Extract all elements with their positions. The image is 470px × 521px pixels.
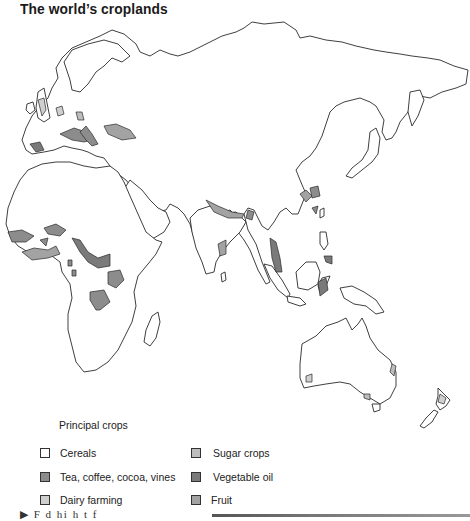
legend-item-sugar: Sugar crops <box>191 447 270 459</box>
legend-heading: Principal crops <box>59 419 128 431</box>
legend-item-dairy: Dairy farming <box>40 494 122 506</box>
legend-swatch-dairy <box>40 495 50 505</box>
kamchatka <box>408 90 424 126</box>
crop-region-china <box>310 186 320 198</box>
legend-item-cereals: Cereals <box>40 447 96 459</box>
crop-region-philippines <box>324 256 332 264</box>
crop-region-china <box>312 206 318 214</box>
crop-region-tea <box>246 210 254 220</box>
legend-item-vegoil: Vegetable oil <box>191 471 273 483</box>
philippines <box>320 232 328 250</box>
japan <box>346 128 380 178</box>
legend-label: Tea, coffee, cocoa, vines <box>60 471 175 483</box>
legend-label: Fruit <box>211 494 232 506</box>
legend-label: Cereals <box>60 447 96 459</box>
legend-swatch-cereals <box>40 448 50 458</box>
ireland <box>26 102 35 114</box>
cropped-footer-text: ▶ F d hi h t f <box>20 508 98 521</box>
new-guinea <box>340 286 384 314</box>
legend-label: Vegetable oil <box>213 471 273 483</box>
crop-region-small <box>68 260 72 266</box>
legend-label: Sugar crops <box>213 447 270 459</box>
australia <box>300 318 396 404</box>
legend-swatch-fruit <box>191 495 201 505</box>
tasmania <box>372 404 380 412</box>
new-zealand-south <box>420 410 438 428</box>
legend-label: Dairy farming <box>60 494 122 506</box>
legend-swatch-tea <box>40 472 50 482</box>
crop-region-sulawesi <box>318 278 328 296</box>
java <box>287 296 306 306</box>
sri-lanka <box>221 272 226 282</box>
legend-item-tea: Tea, coffee, cocoa, vines <box>40 471 175 483</box>
legend-item-fruit: Fruit <box>191 494 232 506</box>
crop-region-australia <box>364 394 370 400</box>
borneo <box>296 262 320 290</box>
legend-swatch-sugar <box>191 448 201 458</box>
madagascar <box>144 312 160 346</box>
legend-swatch-vegoil <box>191 472 201 482</box>
crop-region-small <box>72 270 76 276</box>
footer-rule <box>212 514 470 517</box>
taiwan <box>320 208 324 218</box>
